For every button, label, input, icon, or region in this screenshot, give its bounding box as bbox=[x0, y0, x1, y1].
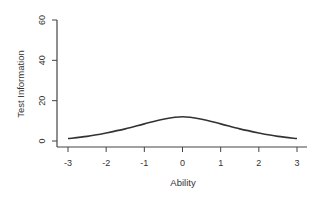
x-axis-label: Ability bbox=[170, 177, 196, 188]
y-tick-label: 40 bbox=[37, 55, 47, 65]
plot-area: 0204060 -3-2-10123 bbox=[37, 15, 307, 168]
test-information-chart: 0204060 -3-2-10123 Ability Test Informat… bbox=[0, 0, 322, 198]
y-tick-label: 0 bbox=[37, 138, 47, 143]
y-axis-label: Test Information bbox=[15, 50, 26, 118]
y-tick-label: 20 bbox=[37, 96, 47, 106]
x-ticks: -3-2-10123 bbox=[64, 147, 300, 168]
x-tick-label: 1 bbox=[218, 158, 223, 168]
y-ticks: 0204060 bbox=[37, 15, 57, 144]
x-tick-label: 3 bbox=[294, 158, 299, 168]
test-information-curve bbox=[68, 117, 297, 139]
x-tick-label: -3 bbox=[64, 158, 72, 168]
x-tick-label: -2 bbox=[102, 158, 110, 168]
x-tick-label: 2 bbox=[256, 158, 261, 168]
y-tick-label: 60 bbox=[37, 15, 47, 25]
x-tick-label: 0 bbox=[180, 158, 185, 168]
x-tick-label: -1 bbox=[140, 158, 148, 168]
